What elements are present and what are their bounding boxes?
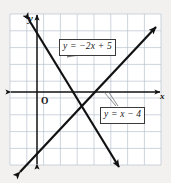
- grid-background: [10, 14, 161, 165]
- equation-label-line1: y = −2x + 5: [59, 39, 116, 56]
- plot-area: [0, 0, 171, 183]
- x-axis-label: x: [160, 92, 165, 101]
- y-axis-label: y: [28, 13, 33, 24]
- origin-label: O: [41, 97, 48, 107]
- equation-label-line2: y = x − 4: [100, 107, 145, 124]
- coordinate-graph-figure: y = −2x + 5 y = x − 4 y x O: [0, 0, 171, 183]
